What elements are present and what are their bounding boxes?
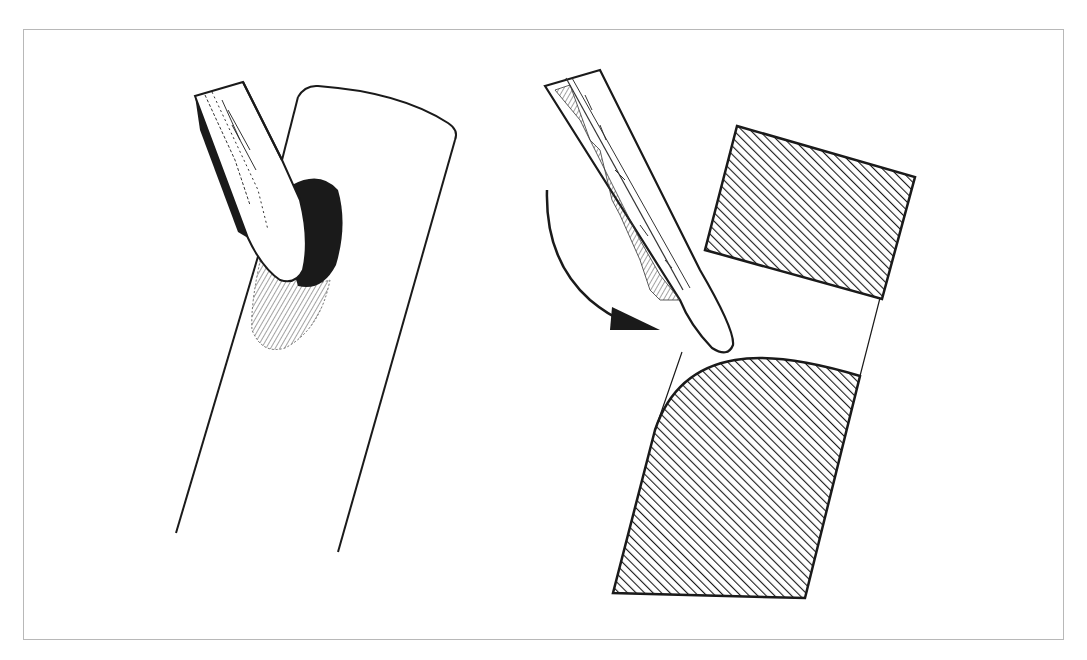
chisel [195,82,306,281]
left-panel [176,82,456,552]
lower-hatched-block [613,358,860,598]
upper-hatched-block [705,126,915,299]
chisel [545,70,733,352]
right-panel [545,70,915,598]
illustration [0,0,1087,660]
